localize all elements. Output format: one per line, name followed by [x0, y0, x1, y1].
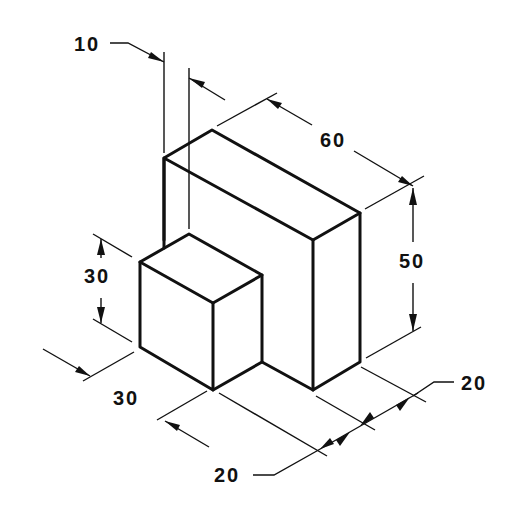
label-30-height: 30: [84, 265, 110, 287]
dimension-bottom-right-20: 20: [413, 372, 487, 396]
dimension-height-50: 50: [366, 188, 425, 358]
label-50: 50: [399, 250, 425, 272]
label-60: 60: [320, 129, 346, 151]
dimension-cube-width-30: 30: [43, 349, 139, 409]
label-10: 10: [74, 33, 100, 55]
isometric-drawing: 10 60 50 30 30: [0, 0, 512, 527]
dimension-offset-10: 10: [74, 33, 225, 229]
small-cube: [140, 234, 262, 390]
label-20-right: 20: [461, 372, 487, 394]
label-20-front: 20: [214, 464, 240, 486]
label-30-width: 30: [113, 387, 139, 409]
dimension-bottom-front-20: 20: [157, 367, 426, 486]
dimension-cube-height-30: 30: [84, 234, 132, 342]
